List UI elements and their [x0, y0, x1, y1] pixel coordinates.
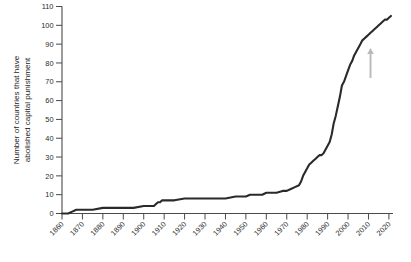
y-tick-label: 30 — [45, 153, 53, 162]
x-tick-label: 1970 — [272, 220, 290, 238]
y-tick-label: 10 — [45, 190, 53, 199]
y-tick-label: 50 — [45, 115, 53, 124]
y-tick-label: 110 — [42, 2, 54, 11]
y-axis-label-line1: Number of countries that have — [12, 55, 21, 164]
x-tick-label: 1930 — [191, 220, 209, 238]
y-axis-ticks: 0102030405060708090100110 — [41, 2, 62, 218]
x-tick-label: 1900 — [129, 220, 147, 238]
x-tick-label: 1910 — [150, 220, 168, 238]
x-tick-label: 1950 — [232, 220, 250, 238]
grey-up-arrow-head — [367, 48, 374, 54]
x-tick-label: 1860 — [48, 220, 66, 238]
x-tick-label: 2010 — [354, 220, 372, 238]
x-tick-label: 1880 — [88, 220, 106, 238]
y-tick-label: 20 — [45, 172, 53, 181]
abolition-count-line — [62, 16, 391, 214]
x-tick-label: 1890 — [109, 220, 127, 238]
x-axis-ticks: 1860187018801890190019101920193019401950… — [48, 214, 393, 238]
y-axis-label-line2: abolished capital punishment — [23, 57, 32, 162]
y-tick-label: 0 — [49, 209, 53, 218]
y-tick-label: 90 — [45, 40, 53, 49]
x-tick-label: 1940 — [211, 220, 229, 238]
x-tick-label: 1960 — [252, 220, 270, 238]
x-tick-label: 1870 — [68, 220, 86, 238]
y-tick-label: 70 — [45, 77, 53, 86]
y-tick-label: 60 — [45, 96, 53, 105]
y-tick-label: 40 — [45, 134, 53, 143]
x-tick-label: 2020 — [375, 220, 393, 238]
x-tick-label: 1990 — [313, 220, 331, 238]
chart-container: Number of countries that have abolished … — [0, 0, 411, 262]
y-tick-label: 80 — [45, 59, 53, 68]
x-tick-label: 2000 — [334, 220, 352, 238]
y-axis-label: Number of countries that have abolished … — [12, 55, 32, 164]
y-tick-label: 100 — [41, 21, 53, 30]
x-tick-label: 1980 — [293, 220, 311, 238]
x-tick-label: 1920 — [170, 220, 188, 238]
chart-annotations — [367, 48, 374, 78]
capital-punishment-abolition-line-chart: Number of countries that have abolished … — [0, 0, 411, 262]
